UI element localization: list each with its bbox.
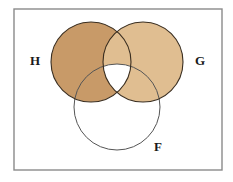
venn-diagram-figure: H G F: [0, 0, 233, 182]
venn-diagram-canvas: H G F: [0, 0, 233, 182]
shaded-regions-group: [51, 22, 183, 102]
set-label-g: G: [195, 53, 205, 68]
set-label-h: H: [30, 53, 40, 68]
set-label-f: F: [154, 139, 162, 154]
